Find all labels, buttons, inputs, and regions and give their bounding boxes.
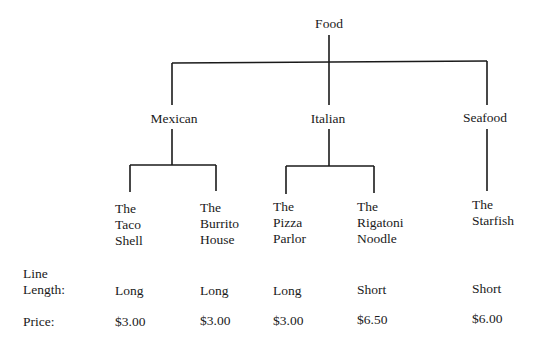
line-length-value: Short: [472, 281, 501, 296]
category-node-seafood: Seafood: [463, 110, 507, 125]
price-value: $6.50: [357, 312, 387, 327]
line-length-value: Long: [200, 283, 229, 298]
restaurant-node-pizza-parlor: The Pizza Parlor: [273, 199, 306, 247]
price-value: $6.00: [472, 311, 502, 326]
tree-connectors: [0, 0, 541, 343]
line-length-label: Line Length:: [23, 266, 65, 298]
price-value: $3.00: [115, 314, 145, 329]
line-length-value: Long: [273, 283, 302, 298]
line-length-value: Short: [357, 282, 386, 297]
restaurant-node-burrito-house: The Burrito House: [200, 200, 239, 248]
price-label: Price:: [23, 314, 55, 329]
restaurant-node-taco-shell: The Taco Shell: [115, 201, 143, 249]
category-node-italian: Italian: [311, 111, 345, 126]
restaurant-node-starfish: The Starfish: [472, 197, 514, 229]
line-length-value: Long: [115, 283, 144, 298]
root-node-food: Food: [315, 16, 343, 31]
price-value: $3.00: [273, 313, 303, 328]
restaurant-node-rigatoni-noodle: The Rigatoni Noodle: [357, 199, 404, 247]
price-value: $3.00: [200, 313, 230, 328]
category-node-mexican: Mexican: [150, 111, 197, 126]
